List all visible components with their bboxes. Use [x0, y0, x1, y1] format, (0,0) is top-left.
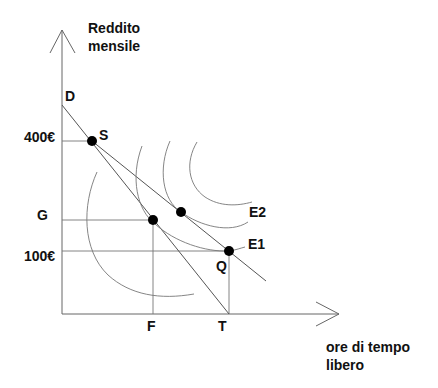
label-E1: E1: [248, 236, 265, 253]
label-Q: Q: [216, 258, 227, 275]
label-F: F: [147, 318, 156, 335]
point-Q: [224, 246, 234, 256]
indifference-curve-high: [190, 142, 252, 205]
x-axis-title: ore di tempo libero: [326, 338, 410, 374]
indifference-curves: [87, 141, 252, 296]
point-FG: [148, 215, 158, 225]
label-100: 100€: [24, 248, 55, 265]
indifference-curve-E2: [163, 141, 248, 228]
label-400: 400€: [24, 129, 55, 146]
indifference-curve-low: [87, 172, 194, 296]
axes: [50, 30, 339, 326]
point-S: [87, 136, 97, 146]
label-D: D: [65, 88, 75, 105]
label-G: G: [37, 207, 48, 224]
label-T: T: [218, 318, 227, 335]
y-axis-title: Reddito mensile: [88, 19, 140, 55]
indifference-curve-E1: [136, 146, 245, 251]
label-E2: E2: [249, 204, 266, 221]
label-S: S: [99, 127, 108, 144]
point-tangent-E2: [176, 207, 186, 217]
